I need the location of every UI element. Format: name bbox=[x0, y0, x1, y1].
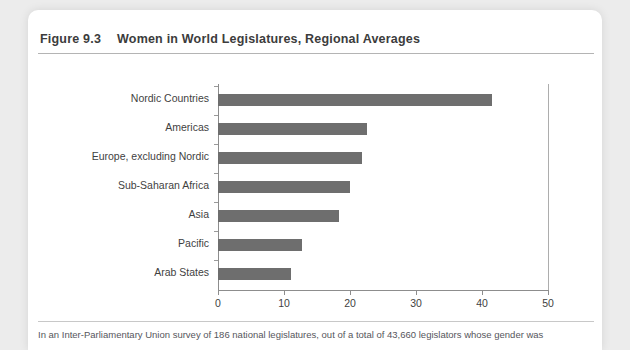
bar-row: Nordic Countries bbox=[218, 86, 548, 115]
plot-right-border bbox=[548, 84, 549, 290]
category-label: Pacific bbox=[178, 236, 209, 250]
category-label: Sub-Saharan Africa bbox=[118, 178, 209, 192]
y-axis-tick bbox=[214, 231, 218, 232]
y-axis-tick bbox=[214, 173, 218, 174]
x-axis-tick-label: 40 bbox=[476, 297, 488, 309]
x-axis-tick-label: 0 bbox=[215, 297, 221, 309]
y-axis-tick bbox=[214, 115, 218, 116]
x-axis-line bbox=[218, 290, 549, 291]
y-axis-tick bbox=[214, 86, 218, 87]
bar-row: Europe, excluding Nordic bbox=[218, 144, 548, 173]
x-axis-tick-label: 20 bbox=[344, 297, 356, 309]
x-axis-tick bbox=[482, 290, 483, 295]
bar-row: Sub-Saharan Africa bbox=[218, 173, 548, 202]
bar-row: Asia bbox=[218, 202, 548, 231]
bar bbox=[218, 239, 302, 251]
plot-bars: Nordic CountriesAmericasEurope, excludin… bbox=[218, 86, 548, 286]
bar-row: Pacific bbox=[218, 231, 548, 260]
figure-title: Women in World Legislatures, Regional Av… bbox=[117, 32, 420, 46]
bar bbox=[218, 123, 367, 135]
category-label: Asia bbox=[189, 207, 209, 221]
x-axis-tick-label: 30 bbox=[410, 297, 422, 309]
bar-chart: Nordic CountriesAmericasEurope, excludin… bbox=[28, 56, 602, 306]
x-axis-tick bbox=[218, 290, 219, 295]
figure-card: Figure 9.3 Women in World Legislatures, … bbox=[28, 10, 602, 350]
y-axis-tick bbox=[214, 144, 218, 145]
bar-row: Americas bbox=[218, 115, 548, 144]
x-axis-tick bbox=[350, 290, 351, 295]
header-divider bbox=[38, 53, 594, 54]
x-axis-tick bbox=[284, 290, 285, 295]
bar bbox=[218, 152, 362, 164]
category-label: Europe, excluding Nordic bbox=[92, 149, 209, 163]
figure-number: Figure 9.3 bbox=[40, 32, 101, 46]
caption-divider bbox=[38, 321, 594, 322]
x-axis-tick-label: 10 bbox=[278, 297, 290, 309]
x-axis-tick bbox=[416, 290, 417, 295]
bar bbox=[218, 94, 492, 106]
category-label: Nordic Countries bbox=[131, 91, 209, 105]
x-axis-tick-label: 50 bbox=[542, 297, 554, 309]
bar-row: Arab States bbox=[218, 260, 548, 289]
category-label: Americas bbox=[165, 120, 209, 134]
x-axis-tick bbox=[548, 290, 549, 295]
y-axis-tick bbox=[214, 260, 218, 261]
y-axis-tick bbox=[214, 202, 218, 203]
bar bbox=[218, 181, 350, 193]
bar bbox=[218, 268, 291, 280]
bar bbox=[218, 210, 339, 222]
figure-caption: In an Inter-Parliamentary Union survey o… bbox=[38, 328, 598, 341]
figure-header: Figure 9.3 Women in World Legislatures, … bbox=[28, 22, 602, 56]
category-label: Arab States bbox=[154, 265, 209, 279]
